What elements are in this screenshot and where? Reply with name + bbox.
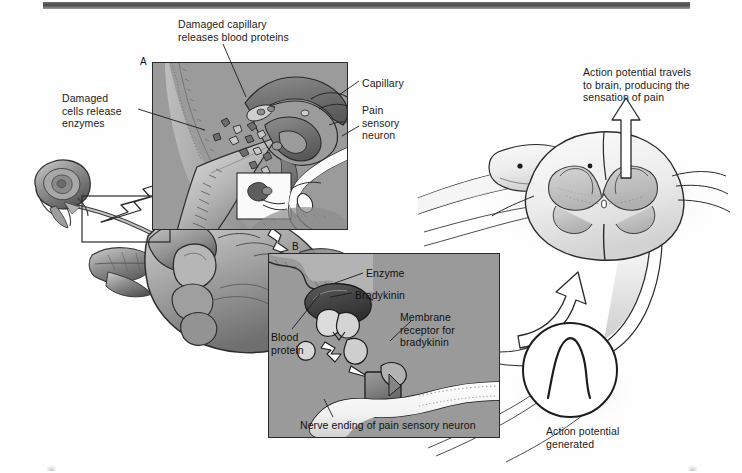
panel-b-letter: B bbox=[292, 241, 299, 252]
panel-a-letter: A bbox=[140, 56, 147, 67]
label-enzyme: Enzyme bbox=[366, 267, 405, 280]
page-artifact-right bbox=[688, 466, 697, 471]
gray-matter bbox=[549, 166, 658, 210]
curved-arrow-icon bbox=[518, 272, 586, 348]
header-rule bbox=[43, 2, 690, 9]
bradykinin-free-molecule bbox=[344, 338, 367, 364]
spinal-cord-shadow bbox=[465, 138, 735, 262]
label-blood-protein: Blood protein bbox=[271, 331, 304, 356]
action-potential-circle bbox=[523, 323, 617, 417]
label-damaged-capillary: Damaged capillary releases blood protein… bbox=[178, 18, 289, 43]
page-artifact-left bbox=[47, 466, 56, 471]
pain-pathway-figure: Damaged capillary releases blood protein… bbox=[0, 0, 742, 473]
label-damaged-cells: Damaged cells release enzymes bbox=[62, 92, 122, 130]
ganglion-cell-body bbox=[517, 163, 522, 168]
arrow-up-icon bbox=[612, 98, 640, 178]
label-nerve-ending: Nerve ending of pain sensory neuron bbox=[300, 419, 476, 432]
central-canal bbox=[601, 200, 606, 208]
action-potential-spike-icon bbox=[548, 338, 590, 398]
spinal-cord-cross-section bbox=[492, 132, 730, 260]
dorsal-horn-synapse bbox=[588, 164, 593, 169]
panel-a-damaged-tissue bbox=[152, 62, 348, 230]
label-action-potential-generated: Action potential generated bbox=[546, 425, 619, 450]
action-potential-shadow bbox=[500, 348, 644, 432]
label-capillary: Capillary bbox=[362, 77, 404, 90]
label-bradykinin: Bradykinin bbox=[355, 289, 405, 302]
label-membrane-receptor: Membrane receptor for bradykinin bbox=[400, 311, 455, 349]
dorsal-root-ganglion bbox=[489, 145, 572, 192]
label-pain-sensory-neuron: Pain sensory neuron bbox=[362, 104, 399, 142]
label-action-potential-brain: Action potential travels to brain, produ… bbox=[583, 66, 691, 104]
